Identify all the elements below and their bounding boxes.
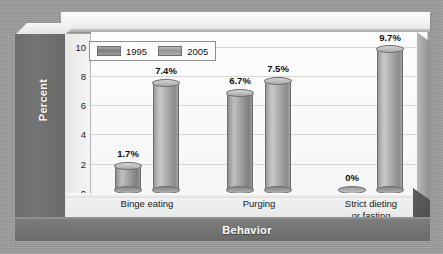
bar-2005-strict-dieting-or-fasting <box>377 45 403 193</box>
y-axis-title: Percent <box>37 20 49 180</box>
bar-body <box>153 83 179 190</box>
bar-1995-binge-eating <box>115 162 141 193</box>
legend-item-2005: 2005 <box>158 46 208 57</box>
y-axis-tick-label: 2 <box>66 160 86 170</box>
legend-label: 1995 <box>126 46 147 57</box>
y-axis-tick-label: 8 <box>66 72 86 82</box>
bar-1995-strict-dieting-or-fasting <box>339 186 365 193</box>
bar-body <box>265 81 291 190</box>
legend-swatch-icon <box>97 46 121 56</box>
bar-top-ellipse <box>152 79 180 87</box>
legend-item-1995: 1995 <box>97 46 147 57</box>
bar-2005-purging <box>265 77 291 193</box>
y-axis-tick-label: 10 <box>66 43 86 53</box>
bar-value-label: 0% <box>345 172 359 183</box>
bar-1995-purging <box>227 89 253 193</box>
bar-body <box>227 93 253 190</box>
legend-swatch-icon <box>158 46 182 56</box>
chart-legend: 19952005 <box>89 41 216 61</box>
category-label-line: Purging <box>199 198 319 210</box>
chart-screenshot: Percent 0246810 1.7%6.7%0%7.4%7.5%9.7% B… <box>0 0 443 254</box>
category-label: Binge eating <box>87 198 207 210</box>
y-axis-tick-label: 4 <box>66 130 86 140</box>
bar-value-label: 7.5% <box>267 63 289 74</box>
bar-body <box>377 49 403 190</box>
y-axis-wall: Percent <box>15 34 65 219</box>
x-axis-title: Behavior <box>222 224 271 236</box>
bar-top-ellipse <box>376 45 404 53</box>
x-axis-band: Behavior <box>67 219 427 241</box>
bar-chart-3d: Percent 0246810 1.7%6.7%0%7.4%7.5%9.7% B… <box>15 12 430 241</box>
y-axis-tick-label: 6 <box>66 101 86 111</box>
bar-value-label: 1.7% <box>117 148 139 159</box>
bar-value-label: 6.7% <box>229 75 251 86</box>
bar-2005-binge-eating <box>153 79 179 193</box>
legend-label: 2005 <box>187 46 208 57</box>
bar-top-ellipse <box>226 89 254 97</box>
category-label: Purging <box>199 198 319 210</box>
category-floor-front-edge <box>67 193 427 198</box>
y-axis-tick-column: 0246810 <box>65 34 91 219</box>
bar-value-label: 9.7% <box>379 32 401 43</box>
category-label-line: Binge eating <box>87 198 207 210</box>
bar-value-label: 7.4% <box>155 65 177 76</box>
